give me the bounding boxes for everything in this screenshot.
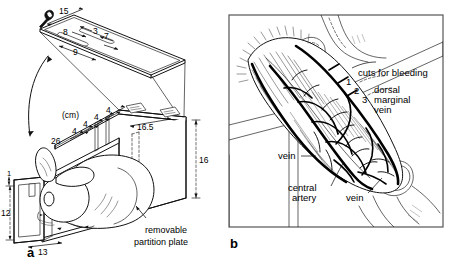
panel-b-ear-anatomy: cuts for bleeding 1 2 3 dorsal marginal … [226,0,452,265]
dim-12-arrow-b [9,236,12,240]
label-dorsal-marginal-vein: dorsal marginal vein [374,84,410,115]
vein-left-label: vein [278,150,295,161]
dim-12-label: 12 [1,208,11,218]
lid-opening-arrow [28,56,52,136]
finger-hatch-upper [352,34,365,44]
box-lid-group: 15 3 8 [40,6,186,78]
dim-3-label: 3 [93,26,98,36]
finger-upper-outline-b [338,15,386,58]
panel-b-drawing: cuts for bleeding 1 2 3 dorsal marginal … [226,0,452,265]
dim-16-arrow-a [194,120,197,124]
dim-13-label: 13 [38,247,48,257]
hand-hatch-lower [408,205,422,222]
hand-outline-d [359,206,374,227]
dim-16-label: 16 [199,155,209,165]
dim-4c-label: 4 [94,112,99,122]
dim-4b-label: 4 [83,119,88,129]
hinge-line-2 [184,63,185,117]
dim-16-arrow-b [194,194,197,198]
panel-b-letter: b [230,236,238,251]
finger-upper-crease [329,18,346,48]
central-artery-line2: artery [292,192,317,203]
cuts-for-bleeding-label: cuts for bleeding [358,67,428,78]
hand-outline-c [412,186,440,213]
dim-1-arrow-b [8,182,11,185]
figure-container: 15 3 8 [0,0,452,265]
panel-b-content [229,15,443,227]
dim-height-right: 16 [192,120,209,198]
rabbit-body-arrow [57,227,62,230]
dim-front-height: 12 [1,186,14,240]
dim-4d-label: 4 [106,105,111,115]
dim-9-label: 9 [73,47,78,57]
panel-a-drawing: 15 3 8 [0,0,226,265]
dim-15-label: 15 [59,6,69,16]
rabbit-ear-left [36,148,57,182]
partition-label-line2: partition plate [134,237,188,247]
cut-number-2: 2 [354,85,359,96]
cut-number-1: 1 [346,76,351,87]
dorsal-marginal-vein-line3: vein [374,104,391,115]
dim-165-label: 16.5 [137,122,154,132]
unit-label: (cm) [62,110,79,120]
front-neck-slot [29,184,35,197]
vein-lower-label: vein [346,192,363,203]
dim-1-label: 1 [7,169,11,178]
rabbit-eye [44,192,54,206]
cut-number-3: 3 [362,94,367,105]
partition-label-line1: removable [145,225,187,235]
dim-13-arrow-b [57,241,62,244]
opening-arc [29,56,48,136]
dim-7-label: 7 [104,31,109,41]
dim-front-top-margin: 1 [7,169,11,185]
hand-outline-b [397,197,419,224]
panel-a-restraining-box: 15 3 8 [0,0,226,265]
dim-12-arrow-a [9,186,12,190]
dim-26-label: 26 [51,136,61,146]
opening-arrow-head-bottom [28,131,34,136]
dim-8-label: 8 [63,27,68,37]
dim-4a-label: 4 [72,126,77,136]
ear-outline [248,38,403,193]
rabbit-illustration [36,148,154,230]
lid-top-face [40,15,185,75]
hand-outline-a [373,196,394,227]
panel-a-letter: a [27,245,35,260]
